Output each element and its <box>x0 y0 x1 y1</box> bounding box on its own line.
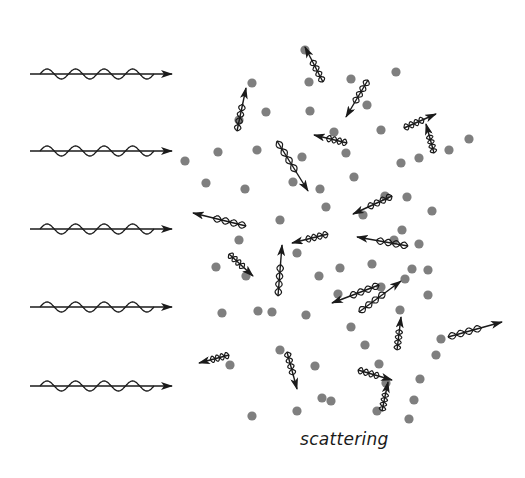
particle-dot <box>415 374 424 383</box>
particle-dot <box>444 145 453 154</box>
particle-dot <box>275 215 284 224</box>
scattered-photon-arrow <box>228 253 253 276</box>
scattering-diagram: scattering <box>0 0 525 478</box>
scattered-photons <box>193 47 502 411</box>
scattered-photon-arrow <box>305 47 325 82</box>
particle-dot <box>423 265 432 274</box>
scattered-photon-arrow <box>448 322 502 339</box>
particle-dot <box>240 184 249 193</box>
particle-dot <box>252 145 261 154</box>
particle-dot <box>211 262 220 271</box>
particle-dot <box>397 225 406 234</box>
particle-dot <box>358 210 367 219</box>
particle-dot <box>261 107 270 116</box>
particle-dot <box>396 158 405 167</box>
particle-dot <box>201 178 210 187</box>
diagram-canvas <box>0 0 525 478</box>
particle-dot <box>464 134 473 143</box>
particle-dot <box>414 239 423 248</box>
particle-dot <box>335 263 344 272</box>
particle-dot <box>247 78 256 87</box>
particle-dot <box>326 396 335 405</box>
particle-dot <box>423 290 432 299</box>
particle-dot <box>275 345 284 354</box>
particle-dot <box>305 106 314 115</box>
particle-dot <box>310 361 319 370</box>
particle-dot <box>362 100 371 109</box>
particle-dot <box>217 308 226 317</box>
scattered-photon-arrow <box>394 317 402 350</box>
diagram-caption: scattering <box>300 429 389 449</box>
particle-dot <box>349 172 358 181</box>
particle-dot <box>297 152 306 161</box>
particle-dot <box>253 306 262 315</box>
particle-dot <box>234 235 243 244</box>
particle-dot <box>404 414 413 423</box>
particle-dot <box>180 156 189 165</box>
incoming-wave-arrow <box>30 381 172 391</box>
particle-dot <box>407 264 416 273</box>
particle-dot <box>301 310 310 319</box>
scattered-photon-arrow <box>275 245 283 296</box>
particle-dot <box>213 147 222 156</box>
particle-dot <box>267 307 276 316</box>
scattered-photon-arrow <box>426 124 437 153</box>
scattered-photon-arrow <box>357 237 408 249</box>
particle-dot <box>414 153 423 162</box>
particle-dot <box>304 77 313 86</box>
scattered-photon-arrow <box>314 135 347 146</box>
particle-dot <box>374 359 383 368</box>
particle-dot <box>395 305 404 314</box>
particle-dot <box>333 289 342 298</box>
scattered-photon-arrow <box>199 353 229 364</box>
particle-dot <box>376 125 385 134</box>
scattered-photon-arrow <box>292 232 328 243</box>
particle-dot <box>367 259 376 268</box>
scattered-photon-arrow <box>404 114 436 130</box>
scattered-photon-arrow <box>353 194 392 214</box>
incoming-wave-arrow <box>30 146 172 156</box>
particle-dot <box>292 248 301 257</box>
scattered-photon-arrow <box>346 80 369 117</box>
particle-dot <box>391 67 400 76</box>
scattered-photon-arrow <box>285 352 297 389</box>
particle-dot <box>436 334 445 343</box>
particle-dot <box>346 74 355 83</box>
particle-dot <box>402 192 411 201</box>
particle-dot <box>317 393 326 402</box>
particle-dot <box>329 127 338 136</box>
incoming-wave-arrow <box>30 302 172 312</box>
particle-dot <box>400 274 409 283</box>
particle-dot <box>346 322 355 331</box>
incoming-light-waves <box>30 69 172 391</box>
particle-dot <box>321 202 330 211</box>
scattered-photon-arrow <box>235 88 247 131</box>
particle-dot <box>315 184 324 193</box>
particle-dot <box>314 271 323 280</box>
particle-dot <box>247 411 256 420</box>
scattered-photon-arrow <box>358 368 392 380</box>
particle-dot <box>427 206 436 215</box>
particle-dot <box>225 360 234 369</box>
particle-dot <box>288 177 297 186</box>
particle-dot <box>341 148 350 157</box>
particle-dot <box>431 350 440 359</box>
incoming-wave-arrow <box>30 69 172 79</box>
incoming-wave-arrow <box>30 224 172 234</box>
particle-dot <box>360 340 369 349</box>
particle-dot <box>292 406 301 415</box>
scattered-photon-arrow <box>193 213 246 228</box>
particle-dot <box>409 395 418 404</box>
